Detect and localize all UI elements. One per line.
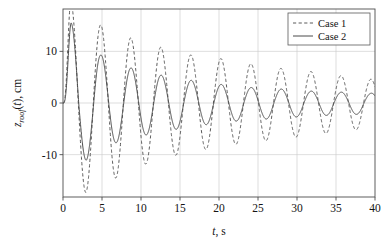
x-tick-label: 25 <box>252 202 264 214</box>
x-tick-label: 10 <box>135 202 147 214</box>
legend-label-case-1: Case 1 <box>318 18 346 29</box>
damped-oscillation-line-chart: 0510152025303540 -10010 t, s zroof(t), c… <box>0 0 391 242</box>
x-tick-label: 0 <box>60 202 66 214</box>
svg-text:t, s: t, s <box>212 225 226 238</box>
x-axis-title: t, s <box>212 225 226 238</box>
x-tick-label: 20 <box>213 202 225 214</box>
y-tick-label: -10 <box>42 149 58 161</box>
y-tick-label: 0 <box>51 97 57 109</box>
x-tick-label: 15 <box>174 202 186 214</box>
x-tick-label: 5 <box>99 202 105 214</box>
x-tick-label: 30 <box>291 202 303 214</box>
x-tick-label: 40 <box>369 202 381 214</box>
y-axis-title-units: cm <box>11 79 23 93</box>
x-tick-label: 35 <box>330 202 342 214</box>
chart-figure: 0510152025303540 -10010 t, s zroof(t), c… <box>0 0 391 242</box>
legend: Case 1 Case 2 <box>288 13 370 45</box>
x-axis-title-units: s <box>221 225 226 237</box>
y-tick-label: 10 <box>46 45 58 57</box>
legend-label-case-2: Case 2 <box>318 31 346 42</box>
